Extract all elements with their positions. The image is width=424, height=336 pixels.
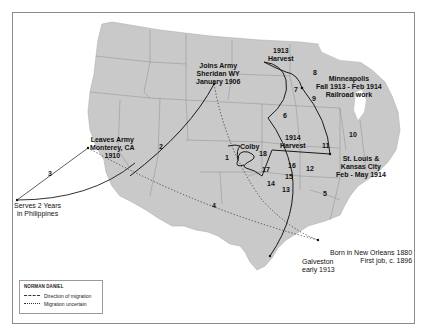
dotted-line-swatch-icon — [24, 303, 40, 306]
label-galveston: Galvestonearly 1913 — [302, 258, 335, 274]
label-joins-army: Joins ArmySheridan WYJanuary 1906 — [196, 62, 240, 86]
segment-16: 16 — [288, 162, 296, 170]
label-harvest-1913: 1913Harvest — [268, 47, 294, 63]
label-colby: Colby — [240, 143, 259, 151]
segment-2: 2 — [159, 143, 163, 151]
segment-8: 8 — [313, 69, 317, 77]
label-new-orleans: Born in New Orleans 1880First job, c. 18… — [330, 249, 412, 265]
solid-line-swatch-icon — [24, 295, 40, 298]
segment-10: 10 — [349, 131, 357, 139]
segment-5: 5 — [323, 190, 327, 198]
segment-4: 4 — [212, 202, 216, 210]
segment-12: 12 — [306, 165, 314, 173]
label-philippines: Serves 2 Yearsin Philippines — [14, 202, 61, 218]
label-leaves-army: Leaves ArmyMonterey, CA1910 — [90, 136, 135, 160]
segment-11: 11 — [322, 142, 329, 150]
segment-7: 7 — [294, 86, 298, 94]
segment-17: 17 — [262, 166, 270, 174]
segment-13: 13 — [282, 186, 290, 194]
segment-9: 9 — [312, 95, 316, 103]
label-minneapolis: MinneapolisFall 1913 - Feb 1914Railroad … — [316, 75, 382, 99]
segment-6: 6 — [283, 112, 287, 120]
legend-item-uncertain: Migration uncertain — [24, 300, 98, 308]
segment-14: 14 — [267, 180, 275, 188]
segment-18: 18 — [259, 150, 267, 158]
segment-3: 3 — [48, 170, 52, 178]
legend-item-direction: Direction of migration — [24, 292, 98, 300]
legend-title: NORMAN DANIEL — [24, 284, 98, 289]
segment-15: 15 — [285, 173, 293, 181]
label-harvest-1914: 1914Harvest — [280, 134, 306, 150]
label-st-louis: St. Louis &Kansas CityFeb - May 1914 — [336, 155, 386, 179]
segment-1: 1 — [225, 154, 229, 162]
map-legend: NORMAN DANIEL Direction of migration Mig… — [19, 280, 103, 314]
